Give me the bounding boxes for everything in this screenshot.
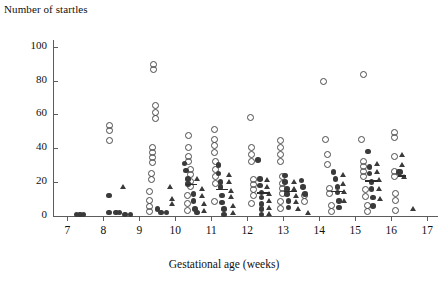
data-point-filled-circle: [282, 179, 288, 185]
data-point-filled-circle: [221, 212, 227, 218]
data-point-filled-triangle: [399, 152, 405, 157]
data-point-open-circle: [248, 200, 255, 207]
y-tick-label: 60: [1, 106, 47, 118]
data-point-filled-triangle: [266, 198, 272, 203]
data-point-open-circle: [358, 136, 365, 143]
data-point-open-circle: [277, 158, 284, 165]
y-tick-label-wrap: 20: [0, 182, 53, 183]
data-point-filled-triangle: [226, 172, 232, 177]
chart-figure: Number of startles 020406080100 78910111…: [0, 0, 448, 290]
y-axis-line: [53, 40, 54, 217]
data-point-open-circle: [392, 207, 399, 214]
x-tick: [211, 216, 212, 221]
x-tick-label: 9: [127, 224, 151, 236]
data-point-open-circle: [320, 78, 327, 85]
data-point-open-circle: [211, 126, 218, 133]
data-point-filled-circle: [370, 203, 376, 209]
y-tick-label-wrap: 80: [0, 81, 53, 82]
data-point-open-circle: [184, 192, 191, 199]
data-point-filled-circle: [191, 198, 197, 204]
data-point-filled-triangle: [266, 205, 272, 210]
x-tick: [175, 216, 176, 221]
data-point-open-circle: [392, 190, 399, 197]
y-tick-label: 0: [1, 208, 47, 220]
x-tick-label: 12: [235, 224, 259, 236]
data-point-filled-circle: [128, 212, 134, 218]
data-point-filled-triangle: [340, 181, 346, 186]
data-point-open-circle: [150, 66, 157, 73]
y-tick-label: 40: [1, 140, 47, 152]
x-tick-label: 8: [91, 224, 115, 236]
data-point-filled-circle: [191, 191, 197, 197]
data-point-open-circle: [106, 127, 113, 134]
data-point-filled-triangle: [201, 208, 207, 213]
data-point-filled-circle: [367, 171, 373, 177]
y-tick: [53, 182, 58, 183]
data-point-filled-triangle: [341, 198, 347, 203]
data-point-filled-circle: [194, 210, 200, 216]
data-point-filled-triangle: [264, 177, 270, 182]
data-point-open-circle: [277, 151, 284, 158]
data-point-filled-triangle: [410, 206, 416, 211]
x-tick-label: 14: [307, 224, 331, 236]
y-tick-label: 20: [1, 174, 47, 186]
data-point-filled-circle: [302, 191, 308, 197]
data-point-filled-triangle: [169, 201, 175, 206]
y-tick: [53, 148, 58, 149]
data-point-open-circle: [250, 192, 257, 199]
data-point-filled-circle: [367, 164, 373, 170]
data-point-filled-circle: [336, 205, 342, 211]
y-tick-label-wrap: 40: [0, 148, 53, 149]
data-point-open-circle: [106, 137, 113, 144]
data-point-filled-circle: [259, 195, 265, 201]
data-point-filled-triangle: [228, 188, 234, 193]
x-tick-label: 7: [55, 224, 79, 236]
data-point-open-circle: [248, 158, 255, 165]
median-bar: [216, 189, 228, 191]
x-tick: [355, 216, 356, 221]
x-tick-label: 16: [379, 224, 403, 236]
data-point-filled-circle: [219, 193, 225, 199]
x-tick-label: 15: [343, 224, 367, 236]
y-tick-label-wrap: 60: [0, 114, 53, 115]
data-point-open-circle: [322, 136, 329, 143]
data-point-open-circle: [184, 207, 191, 214]
x-tick: [427, 216, 428, 221]
x-tick: [283, 216, 284, 221]
data-point-open-circle: [362, 193, 369, 200]
data-point-open-circle: [328, 208, 335, 215]
x-tick-label: 13: [271, 224, 295, 236]
data-point-filled-triangle: [377, 196, 383, 201]
data-point-open-circle: [360, 71, 367, 78]
data-point-filled-circle: [219, 200, 225, 206]
data-point-filled-circle: [282, 173, 288, 179]
plot-area: 020406080100 7891011121314151617: [0, 0, 448, 250]
data-point-open-circle: [146, 188, 153, 195]
data-point-open-circle: [360, 173, 367, 180]
y-tick: [53, 81, 58, 82]
data-point-filled-triangle: [120, 184, 126, 189]
data-point-open-circle: [149, 159, 156, 166]
x-tick: [247, 216, 248, 221]
data-point-open-circle: [152, 115, 159, 122]
x-tick: [391, 216, 392, 221]
data-point-open-circle: [146, 208, 153, 215]
data-point-filled-circle: [370, 195, 376, 201]
data-point-filled-triangle: [199, 193, 205, 198]
data-point-filled-circle: [182, 161, 188, 167]
data-point-filled-triangle: [340, 172, 346, 177]
data-point-open-circle: [248, 151, 255, 158]
y-tick-label-wrap: 0: [0, 216, 53, 217]
data-point-open-circle: [185, 144, 192, 151]
data-point-open-circle: [185, 132, 192, 139]
data-point-open-circle: [277, 205, 284, 212]
median-bar: [331, 191, 344, 193]
data-point-filled-triangle: [230, 210, 236, 215]
data-point-open-circle: [184, 200, 191, 207]
y-tick-label-wrap: 100: [0, 47, 53, 48]
median-bar: [257, 192, 269, 194]
x-tick: [319, 216, 320, 221]
data-point-filled-triangle: [376, 186, 382, 191]
data-point-filled-circle: [257, 183, 263, 189]
data-point-filled-triangle: [305, 210, 311, 215]
